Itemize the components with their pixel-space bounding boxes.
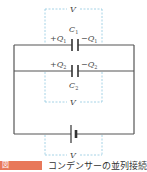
figure-caption: 図 コンデンサーの並列接続 [0, 159, 147, 171]
capacitor-c2-icon [72, 65, 78, 77]
c2-label: C2 [69, 81, 78, 91]
caption-title: コンデンサーの並列接続 [48, 159, 147, 172]
q2-plus-label: +Q2 [50, 60, 66, 70]
q2-minus-label: −Q2 [81, 60, 97, 70]
capacitor-c1-icon [72, 39, 78, 51]
figure-label: 図 [0, 161, 42, 170]
battery-icon [71, 125, 76, 143]
voltage-label-top: V [70, 5, 77, 14]
c1-label: C1 [69, 25, 78, 35]
voltage-label-middle: V [70, 98, 77, 107]
q1-minus-label: −Q1 [81, 34, 97, 44]
q1-plus-label: +Q1 [50, 34, 66, 44]
circuit-diagram: V V V C1 C2 +Q1 −Q1 +Q2 −Q2 [0, 0, 147, 171]
